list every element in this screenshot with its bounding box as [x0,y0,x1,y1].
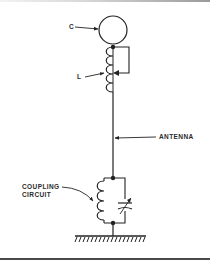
label-coupling-circuit: COUPLING CIRCUIT [22,183,60,199]
l-pointer-arrow [85,73,104,77]
label-c: C [69,23,74,31]
coupling-pointer-arrow [62,187,93,201]
c-pointer-arrow [75,27,98,29]
capacitance-hat-circle [99,16,127,44]
coupling-coil [97,181,104,220]
tap-arrowhead [113,70,119,76]
bottom-border [0,258,210,260]
ground-icon [75,236,146,242]
antenna-pointer-arrow [115,137,156,138]
label-l: L [77,73,81,81]
label-antenna: ANTENNA [159,133,194,141]
label-coupling-line1: COUPLING [22,183,60,191]
label-coupling-line2: CIRCUIT [22,191,60,199]
coil-tap-wire [113,47,129,73]
loading-coil-l [106,47,113,92]
